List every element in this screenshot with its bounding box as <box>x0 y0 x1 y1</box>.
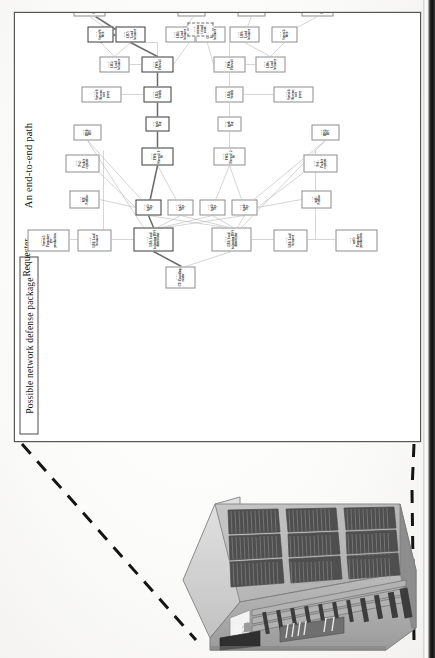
node-title-label: FW2: Firewall 2-W <box>226 150 237 164</box>
diagram-node-net1[interactable]: block:net1: Purgatory production <box>336 230 378 252</box>
figure-frame: Possible network defense package An end-… <box>14 12 421 442</box>
diagram-node-int1[interactable]: block:int1: Netflow <box>302 191 332 209</box>
node-title-label: FW6: DB W <box>249 12 256 15</box>
diagram-node-lb11[interactable]: block:LB11: Load balancer <box>74 12 106 17</box>
node-title-label: LB1: Load balancer <box>92 232 99 250</box>
diagram-node-fw4[interactable]: block:FW4: Firewall <box>214 57 246 73</box>
node-title-label: tap3: Tap <box>210 202 217 214</box>
diagram-node-fw6[interactable]: block:FW6: DB W <box>238 12 266 17</box>
node-title-label: external cloud route <box>197 25 208 35</box>
diagram-node-srv2[interactable]: block:Server2: Purgatory pre-production <box>28 230 70 252</box>
node-title-label: tap2: Tap <box>178 202 185 214</box>
node-title-label: Server2: Purgatory pre-production <box>43 232 57 250</box>
diagram-node-srv1-rev[interactable]: block:Server1: Reverse web proxy <box>82 87 122 103</box>
node-title-label: FW3: Firewall <box>155 59 162 71</box>
diagram-node-lb-up1[interactable]: block:LB1: Load balancer <box>78 230 112 252</box>
diagram-node-fw3[interactable]: block:FW3: Firewall <box>142 57 174 73</box>
node-title-label: LB11: Load balancer <box>86 12 97 15</box>
node-title-label: Pv1: Packet capture <box>317 157 328 171</box>
node-title-label: LB4: Switch <box>227 89 234 101</box>
node-title-label: tap5: Tap <box>155 119 162 130</box>
node-title-label: tap4: Tap <box>242 202 249 214</box>
node-title-label: Server5: Web <box>282 29 289 41</box>
scanned-page: Possible network defense package An end-… <box>0 0 435 658</box>
diagram-node-lb12[interactable]: block:LB12: Load balancer <box>302 12 334 17</box>
diagram-node-tap4[interactable]: block:tap4: Tap <box>232 200 258 216</box>
diagram-node-lb-top[interactable]: block:LB1: Load balancing DNS distributo… <box>134 228 174 252</box>
diagram-node-lb4[interactable]: block:LB4: Switch <box>216 87 244 103</box>
diagram-node-pv1[interactable]: block:Pv1: Packet capture <box>304 155 338 173</box>
node-title-label: tap1: Tap <box>146 202 153 214</box>
diagram-node-lb9[interactable]: block:LB9: Load balancer <box>230 27 260 43</box>
node-title-label: LB1: Load balancing DNS distributor <box>150 230 161 250</box>
diagram-node-tap6[interactable]: block:tap6: Tap <box>218 117 242 132</box>
diagram-node-lb7[interactable]: block:LB7: Load balancer <box>116 27 146 43</box>
node-title-label: LB6: Load balancer <box>267 59 278 71</box>
node-title-label: LB5: Load balancer <box>111 59 122 71</box>
diagram-node-requester[interactable]: node:CT: Encoding router <box>166 267 196 289</box>
diagram-node-tap1[interactable]: block:tap1: Tap <box>136 200 162 216</box>
node-title-label: MT: Netflow <box>82 193 89 207</box>
diagram-node-tap3[interactable]: block:tap3: Tap <box>200 200 226 216</box>
node-title-label: FW1: Firewall 1-W <box>154 150 165 164</box>
diagram-node-pv2[interactable]: block:Pv2: Packet capture <box>66 155 100 173</box>
diagram-node-fw2[interactable]: block:FW2: Firewall 2-W <box>214 148 246 166</box>
diagram-node-lb-bot[interactable]: block:LB1: Load balancing DNS distributo… <box>212 228 252 252</box>
node-title-label: IDS1: IDS <box>85 127 92 139</box>
node-title-label: Server9: Web <box>98 29 105 41</box>
node-title-label: Server3: Reverse web proxy <box>288 89 302 101</box>
node-title-label: LB3: Switch <box>155 89 162 101</box>
diagram-node-cloud[interactable]: block:external cloud route <box>188 23 214 37</box>
node-title-label: FW5: DB W <box>189 12 196 15</box>
diagram-node-lb6[interactable]: block:LB6: Load balancer <box>256 57 286 73</box>
diagram-edges <box>16 13 421 441</box>
diagram-node-mt-netflow[interactable]: block:MT: Netflow <box>70 191 100 209</box>
diagram-node-ids1[interactable]: block:IDS1: IDS <box>74 125 102 141</box>
node-title-label: Pv2: Packet capture <box>79 157 90 171</box>
node-title-label: net1: Purgatory production <box>353 232 364 250</box>
diagram-node-srv5[interactable]: block:Server5: Web <box>272 27 298 43</box>
node-title-label: LB7: Load balancer <box>127 29 138 41</box>
title-end-to-end-path: An end-to-end path <box>20 106 37 226</box>
node-title-label: LB8: Load balancer <box>177 29 188 41</box>
node-title-label: Server1: Reverse web proxy <box>96 89 110 101</box>
diagram-node-srv9[interactable]: block:Server9: Web <box>88 27 114 43</box>
diagram-node-srv3-rev[interactable]: block:Server3: Reverse web proxy <box>274 87 314 103</box>
diagram-node-fw5[interactable]: block:FW5: DB W <box>178 12 206 17</box>
diagram-node-tap5[interactable]: block:tap5: Tap <box>146 117 170 132</box>
node-title-label: LB12: Load balancer <box>314 12 325 15</box>
diagram-node-lb3[interactable]: block:LB3: Switch <box>144 87 172 103</box>
server-rack-illustration <box>168 452 426 652</box>
rotated-diagram-canvas: Possible network defense package An end-… <box>16 13 421 441</box>
node-title-label: LB9: Load balancer <box>241 29 252 41</box>
diagram-node-lb5[interactable]: block:LB5: Load balancer <box>100 57 130 73</box>
node-title-label: IDS2: IDS <box>323 127 330 139</box>
node-title-label: tap6: Tap <box>227 119 234 130</box>
diagram-node-ids2[interactable]: block:IDS2: IDS <box>312 125 340 141</box>
node-title-label: LB1: Load balancer <box>288 232 295 250</box>
diagram-node-lb-dn1[interactable]: block:LB1: Load balancer <box>274 230 308 252</box>
page-edge-dark <box>426 0 435 658</box>
node-title-label: CT: Encoding router <box>178 269 185 287</box>
node-title-label: int1: Netflow <box>314 193 321 207</box>
node-title-label: FW4: Firewall <box>227 59 234 71</box>
diagram-node-tap2[interactable]: block:tap2: Tap <box>168 200 194 216</box>
node-title-label: LB1: Load balancing DNS distributor <box>228 230 239 250</box>
diagram-node-fw1[interactable]: block:FW1: Firewall 1-W <box>142 148 174 166</box>
